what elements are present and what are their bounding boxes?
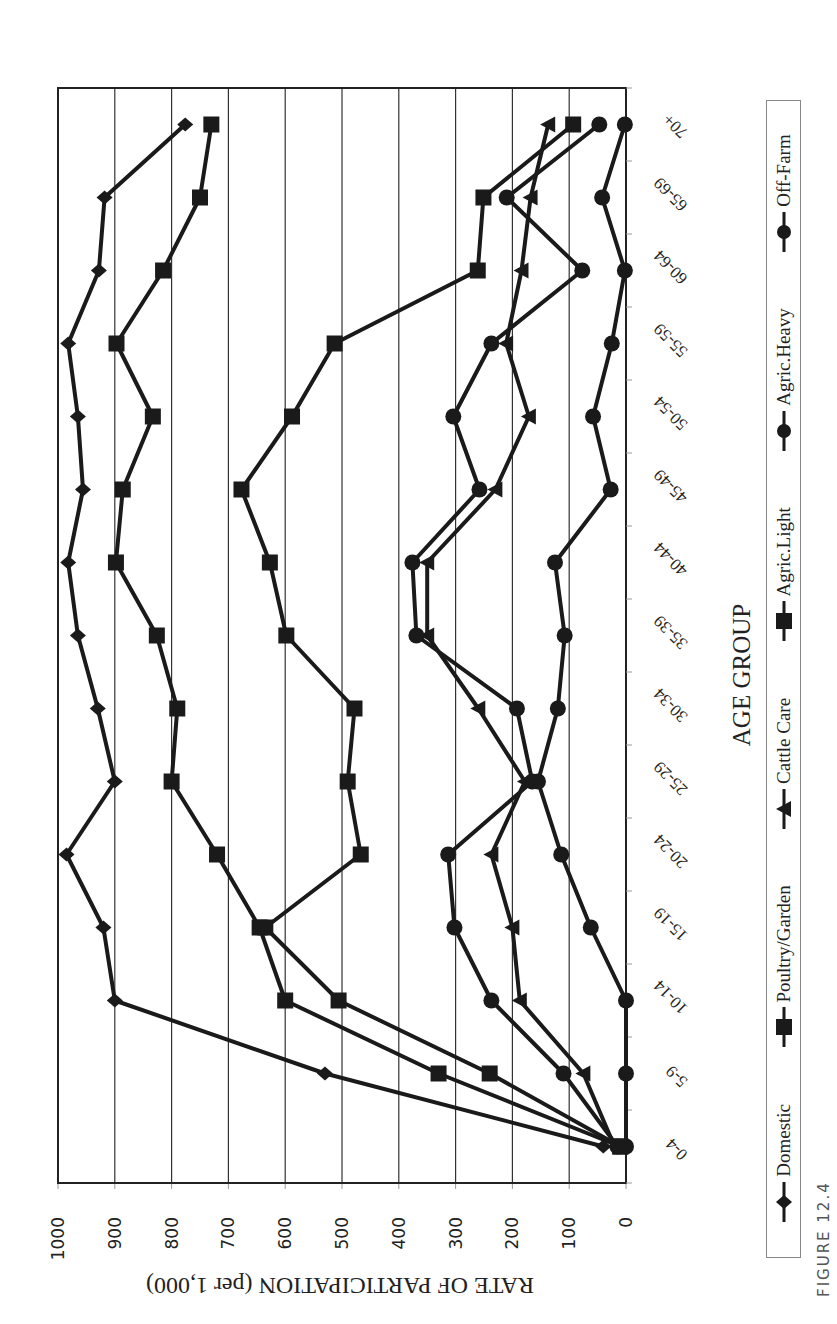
series-line-agric-heavy [412,125,617,1147]
legend-label: Off-Farm [773,134,795,206]
off-farm-marker-circle [557,628,573,644]
poultry-garden-marker-square [155,263,171,279]
poultry-garden-marker-square [277,993,293,1009]
domestic-marker-diamond [75,483,91,497]
agric-light-marker-square [331,993,347,1009]
agric-light-marker-square [257,920,273,936]
chart-legend: DomesticPoultry/GardenCattle CareAgric.L… [766,100,801,1258]
agric-heavy-marker-circle [404,555,420,571]
y-tick-label: 100 [559,1217,579,1287]
off-farm-marker-circle [618,1066,634,1082]
legend-item-poultry-garden: Poultry/Garden [773,885,795,1049]
square-marker-icon [774,599,794,643]
legend-item-cattle-care: Cattle Care [773,698,795,831]
poultry-garden-marker-square [169,701,185,717]
legend-item-agric-heavy: Agric.Heavy [773,308,795,453]
agric-light-marker-square [262,555,278,571]
agric-heavy-marker-circle [471,482,487,498]
agric-heavy-marker-circle [574,263,590,279]
agric-heavy-marker-circle [591,117,607,133]
off-farm-marker-circle [617,117,633,133]
domestic-marker-diamond [70,629,86,643]
domestic-marker-diamond [317,1067,333,1081]
off-farm-marker-circle [553,847,569,863]
off-farm-marker-circle [547,555,563,571]
poultry-garden-marker-square [164,774,180,790]
domestic-marker-diamond [60,556,76,570]
x-axis-title: AGE GROUP [728,575,756,775]
agric-light-marker-square [327,336,343,352]
cattle-care-marker-triangle [483,847,498,863]
square-marker-icon [774,1006,794,1050]
y-tick-label: 900 [105,1217,125,1287]
agric-light-marker-square [346,701,362,717]
agric-light-marker-square [475,190,491,206]
figure-caption: FIGURE 12.4 [815,1181,833,1297]
agric-heavy-marker-circle [446,920,462,936]
circle-marker-icon [774,210,794,254]
legend-item-domestic: Domestic [773,1104,795,1224]
agric-heavy-marker-circle [556,1066,572,1082]
agric-light-marker-square [470,263,486,279]
off-farm-marker-circle [604,336,620,352]
agric-heavy-marker-circle [445,409,461,425]
agric-heavy-marker-circle [483,336,499,352]
agric-light-marker-square [340,774,356,790]
agric-light-marker-square [353,847,369,863]
series-line-poultry-garden [116,125,620,1147]
agric-light-marker-square [284,409,300,425]
off-farm-marker-circle [603,482,619,498]
agric-heavy-marker-circle [440,847,456,863]
domestic-marker-diamond [95,921,111,935]
agric-heavy-marker-circle [499,190,515,206]
legend-label: Cattle Care [773,698,795,784]
poultry-garden-marker-square [192,190,208,206]
domestic-marker-diamond [60,337,76,351]
line-chart [0,0,837,1324]
agric-light-marker-square [278,628,294,644]
rotated-figure: 10009008007006005004003002001000 0-45-91… [0,0,837,1324]
agric-heavy-marker-circle [408,628,424,644]
legend-label: Agric.Heavy [773,308,795,406]
domestic-marker-diamond [107,994,123,1008]
legend-label: Poultry/Garden [773,885,795,1002]
off-farm-marker-circle [550,701,566,717]
y-axis-title-text: RATE OF PARTICIPATION (per 1,000) [146,1272,534,1299]
off-farm-marker-circle [530,774,546,790]
y-tick-label: 0 [616,1217,636,1287]
poultry-garden-marker-square [431,1066,447,1082]
poultry-garden-marker-square [209,847,225,863]
poultry-garden-marker-square [145,409,161,425]
domestic-marker-diamond [70,410,86,424]
domestic-marker-diamond [91,264,107,278]
legend-item-agric-light: Agric.Light [773,507,795,643]
off-farm-marker-circle [583,920,599,936]
circle-marker-icon [774,409,794,453]
legend-item-off-farm: Off-Farm [773,134,795,253]
legend-label: Agric.Light [773,507,795,596]
triangle-marker-icon [774,787,794,831]
off-farm-marker-circle [618,993,634,1009]
off-farm-marker-circle [594,190,610,206]
off-farm-marker-circle [585,409,601,425]
agric-light-marker-square [565,117,581,133]
poultry-garden-marker-square [109,336,125,352]
poultry-garden-marker-square [108,555,124,571]
legend-label: Domestic [773,1104,795,1177]
poultry-garden-marker-square [203,117,219,133]
diamond-marker-icon [774,1180,794,1224]
off-farm-marker-circle [618,1139,634,1155]
agric-heavy-marker-circle [509,701,525,717]
y-tick-label: 1000 [48,1217,68,1287]
off-farm-marker-circle [617,263,633,279]
agric-light-marker-square [233,482,249,498]
agric-light-marker-square [482,1066,498,1082]
poultry-garden-marker-square [115,482,131,498]
poultry-garden-marker-square [149,628,165,644]
agric-heavy-marker-circle [483,993,499,1009]
domestic-marker-diamond [90,702,106,716]
